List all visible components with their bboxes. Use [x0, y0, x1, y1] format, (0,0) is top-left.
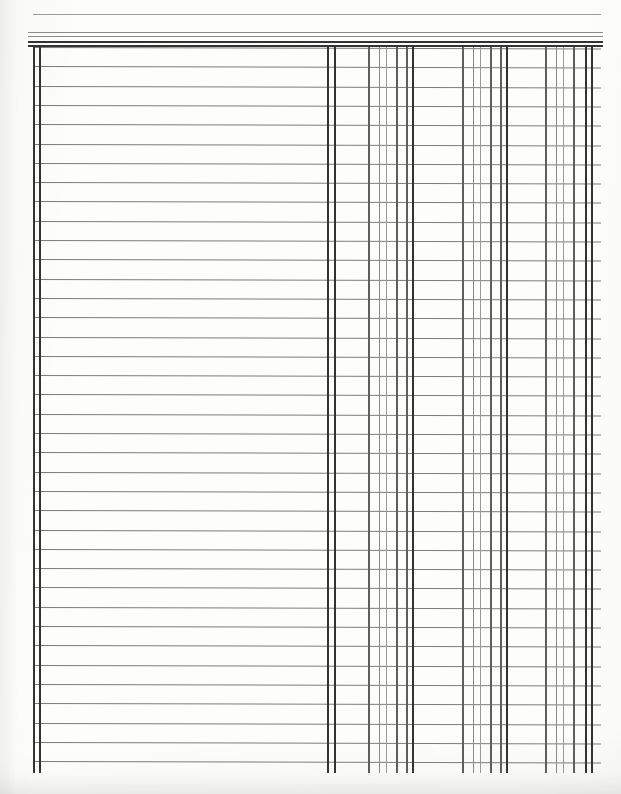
- row-rule: [33, 182, 601, 185]
- column-rule-group1-col4: [396, 47, 398, 773]
- ledger-grid: [0, 0, 621, 794]
- column-rule-group2-col2: [473, 47, 474, 773]
- row-rule: [33, 433, 601, 436]
- row-rule: [33, 510, 601, 513]
- row-rule: [33, 144, 601, 147]
- row-rule: [33, 472, 601, 475]
- row-rule: [33, 259, 601, 262]
- column-rule-group2-col1: [462, 47, 464, 773]
- row-rule: [33, 201, 601, 204]
- row-rule: [33, 394, 601, 397]
- header-rule-3: [28, 36, 603, 37]
- column-rule-group1-col3: [386, 47, 387, 773]
- row-rule: [33, 163, 601, 166]
- column-rule-group3-col4: [573, 47, 575, 773]
- column-rule-left-margin-outer: [33, 47, 35, 773]
- row-rule: [33, 47, 601, 50]
- row-rule: [33, 645, 601, 648]
- row-rule: [33, 240, 601, 243]
- row-rule: [33, 684, 601, 687]
- row-rule: [33, 86, 601, 89]
- column-rule-money-area-divider-outer: [327, 47, 329, 773]
- row-rule: [33, 105, 601, 108]
- ledger-sheet: [0, 0, 621, 794]
- column-rule-group3-col2: [556, 47, 557, 773]
- row-rule: [33, 491, 601, 494]
- column-rule-group2-col3: [480, 47, 481, 773]
- row-rule: [33, 607, 601, 610]
- row-rule: [33, 317, 601, 320]
- column-rule-group2-col5: [500, 47, 502, 773]
- row-rule: [33, 124, 601, 127]
- row-rule: [33, 665, 601, 668]
- column-rule-group2-col4: [490, 47, 492, 773]
- row-rule: [33, 298, 601, 301]
- row-rule: [33, 761, 601, 764]
- row-rule: [33, 66, 601, 69]
- column-rule-right-margin-outer: [585, 47, 587, 773]
- row-rule: [33, 279, 601, 282]
- row-rule: [33, 356, 601, 359]
- row-rule: [33, 742, 601, 745]
- column-rule-group1-col1: [368, 47, 370, 773]
- row-rule: [33, 375, 601, 378]
- column-rule-group1-end: [412, 47, 414, 773]
- row-rule: [33, 221, 601, 224]
- row-rule: [33, 530, 601, 533]
- column-rule-group3-col3: [563, 47, 564, 773]
- column-rule-left-margin-inner: [39, 47, 41, 773]
- row-rule: [33, 626, 601, 629]
- row-rule: [33, 568, 601, 571]
- column-rule-right-margin-inner: [591, 47, 593, 773]
- row-rule: [33, 549, 601, 552]
- column-rule-group3-col1: [545, 47, 547, 773]
- column-rule-group1-col2: [379, 47, 380, 773]
- column-rule-group2-end: [506, 47, 508, 773]
- header-rule-1: [33, 14, 601, 15]
- column-rule-money-area-divider-inner: [334, 47, 336, 773]
- row-rule: [33, 452, 601, 455]
- row-rule: [33, 703, 601, 706]
- row-rule: [33, 337, 601, 340]
- row-rule: [33, 723, 601, 726]
- header-rule-2: [28, 32, 603, 33]
- row-rule: [33, 587, 601, 590]
- header-rule-4: [28, 41, 603, 43]
- column-rule-group1-col5: [406, 47, 408, 773]
- row-rule: [33, 414, 601, 417]
